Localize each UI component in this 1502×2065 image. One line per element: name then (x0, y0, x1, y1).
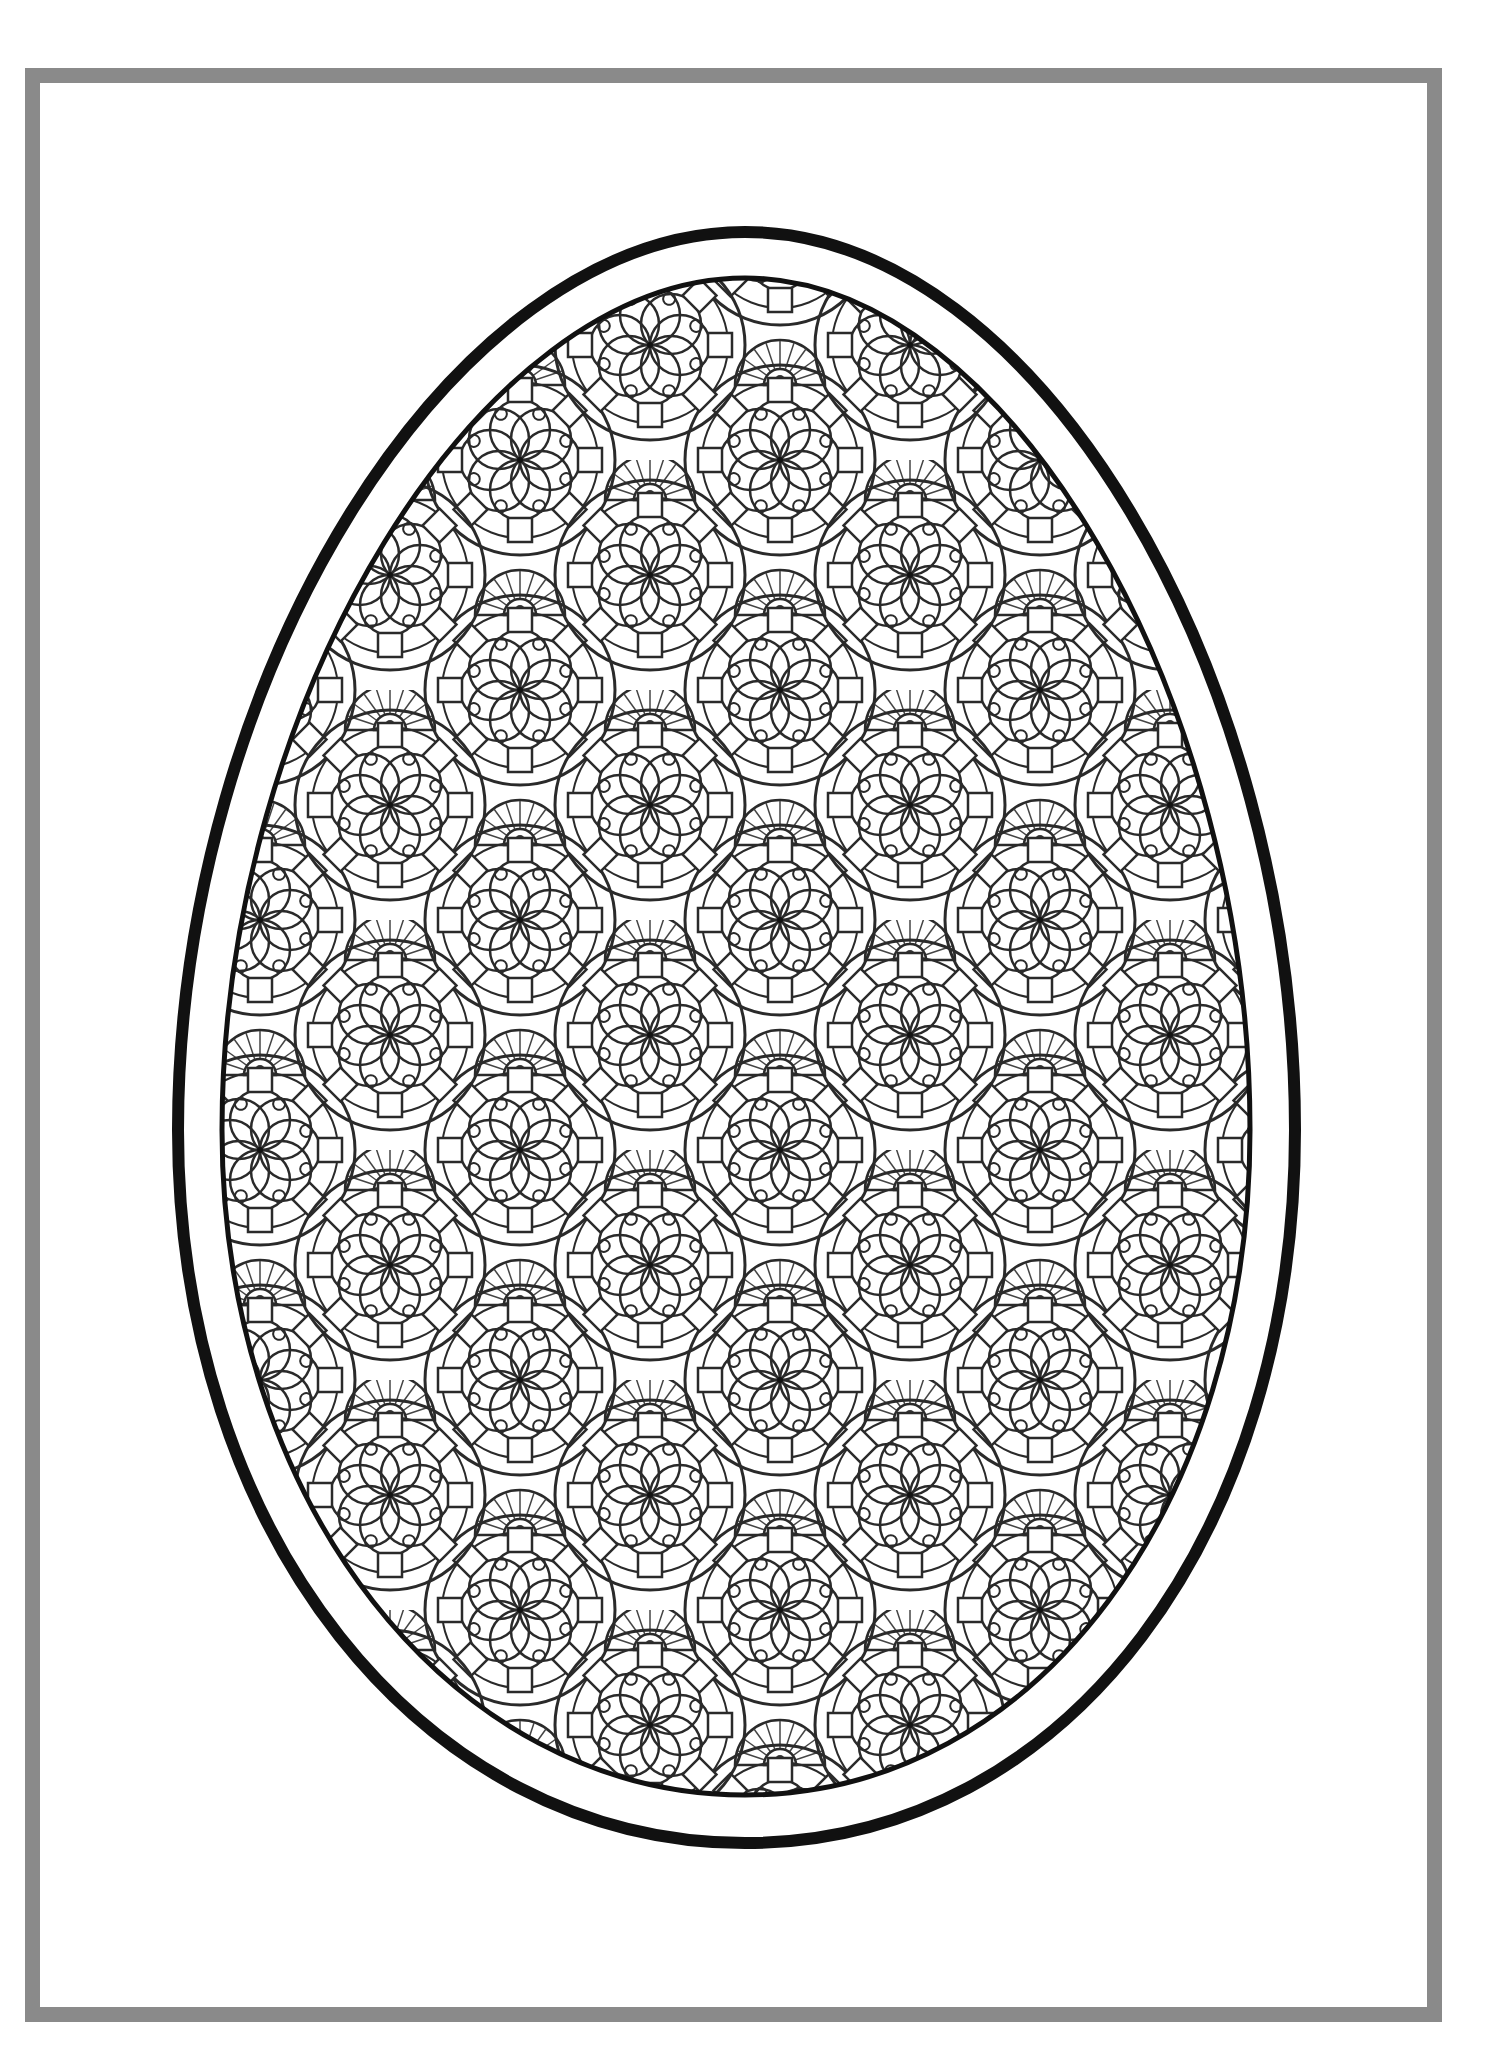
egg-illustration (0, 0, 1502, 2065)
